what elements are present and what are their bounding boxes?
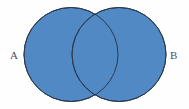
venn-diagram-figure: A B (0, 0, 189, 109)
set-b-label: B (170, 50, 178, 61)
set-a-label: A (10, 50, 18, 61)
venn-diagram-canvas (0, 0, 189, 109)
